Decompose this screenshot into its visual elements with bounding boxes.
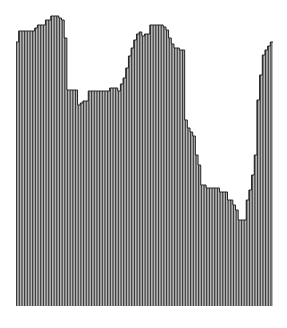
bar-stripe [62,20,63,306]
bar-stripe [107,91,108,306]
bar-stripe [29,31,30,306]
bar-stripe [270,42,271,306]
bar-stripe [91,91,92,306]
bar-stripe [131,48,132,306]
bar-stripe [48,20,49,306]
bar-chart [0,0,287,328]
bar-stripe [126,68,127,306]
bar-stripe [190,132,191,306]
bar-stripe [37,25,38,306]
bar-stripe [16,42,17,306]
bar-stripe [182,50,183,306]
bar-stripe [115,88,116,306]
bar-stripe [171,44,172,306]
bar-stripe [169,38,170,306]
bar-stripe [145,34,146,306]
bar-stripe [249,190,250,306]
bars-group [16,16,273,306]
bar-stripe [75,90,76,306]
bar-stripe [21,31,22,306]
bar-stripe [51,16,52,306]
bar-stripe [104,91,105,306]
bar-stripe [206,188,207,306]
bar-stripe [187,128,188,306]
bar-stripe [155,25,156,306]
bar-stripe [219,192,220,306]
bar-stripe [139,32,140,306]
bar-stripe [262,55,263,306]
bar-stripe [83,101,84,306]
bar-stripe [252,175,253,306]
bar-stripe [110,88,111,306]
bar-stripe [64,38,65,306]
bar-stripe [209,188,210,306]
bar-stripe [244,220,245,306]
bar-stripe [260,75,261,306]
bar-stripe [166,30,167,306]
bar-stripe [53,16,54,306]
bar-stripe [147,34,148,306]
bar-stripe [163,27,164,306]
bar-stripe [222,192,223,306]
bar-stripe [150,25,151,306]
bar-stripe [265,50,266,306]
bar-stripe [88,91,89,306]
bar-stripe [230,200,231,306]
bar-stripe [161,25,162,306]
bar-stripe [185,120,186,306]
bar-stripe [86,101,87,306]
bar-stripe [27,31,28,306]
bar-stripe [136,34,137,306]
bar-stripe [80,103,81,306]
bar-stripe [40,25,41,306]
bar-stripe [241,220,242,306]
bar-stripe [195,155,196,306]
bar-stripe [70,90,71,306]
bar-stripe [96,91,97,306]
bar-stripe [59,18,60,306]
bar-stripe [24,31,25,306]
bar-stripe [268,46,269,306]
bar-stripe [225,192,226,306]
bar-stripe [201,185,202,306]
bar-stripe [179,50,180,306]
bar-stripe [238,220,239,306]
bar-stripe [35,28,36,306]
bar-stripe [120,84,121,306]
bar-stripe [174,48,175,306]
bar-stripe [236,210,237,306]
bar-stripe [78,105,79,306]
bar-stripe [193,136,194,306]
bar-stripe [94,91,95,306]
bar-stripe [67,90,68,306]
bar-stripe [112,88,113,306]
bar-stripe [56,16,57,306]
bar-stripe [45,20,46,306]
bar-stripe [128,56,129,306]
bar-stripe [102,91,103,306]
bar-stripe [217,188,218,306]
bar-stripe [153,25,154,306]
bar-stripe [177,48,178,306]
bar-stripe [214,188,215,306]
bar-stripe [227,200,228,306]
bar-stripe [198,165,199,306]
bar-stripe [43,25,44,306]
bar-stripe [142,36,143,306]
bar-stripe [99,91,100,306]
bar-stripe [123,78,124,306]
bar-stripe [233,205,234,306]
bar-stripe [32,31,33,306]
bar-stripe [254,155,255,306]
bar-stripe [211,188,212,306]
bar-stripe [203,185,204,306]
bar-stripe [72,90,73,306]
bar-stripe [134,40,135,306]
bar-stripe [19,31,20,306]
bar-stripe [158,25,159,306]
bar-stripe [118,91,119,306]
